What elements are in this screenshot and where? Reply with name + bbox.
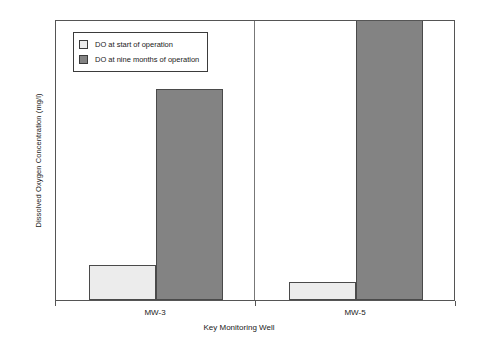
light-gray-swatch-icon xyxy=(79,40,88,49)
bar-chart-figure: Dissolved Oxygen Concentration (mg/l) 00… xyxy=(0,0,478,346)
bar-mw-5-series-2 xyxy=(356,20,423,300)
bar-mw-3-series-2 xyxy=(156,89,223,300)
y-tick-mark xyxy=(55,91,56,92)
legend-entry-label: DO at start of operation xyxy=(95,40,173,49)
y-tick-mark xyxy=(55,56,56,57)
x-axis-title: Key Monitoring Well xyxy=(0,323,478,332)
dark-gray-swatch-icon xyxy=(79,55,88,64)
legend-entry-label: DO at nine months of operation xyxy=(95,55,199,64)
y-tick-mark xyxy=(55,266,56,267)
y-tick-mark xyxy=(55,161,56,162)
y-tick-mark xyxy=(55,196,56,197)
chart-legend: DO at start of operation DO at nine mont… xyxy=(73,32,208,72)
category-divider xyxy=(254,21,255,300)
x-tick-label-mw-5: MW-5 xyxy=(344,308,365,317)
x-tick-mark xyxy=(255,301,256,306)
y-axis-title: Dissolved Oxygen Concentration (mg/l) xyxy=(34,41,43,281)
bar-mw-5-series-1 xyxy=(289,282,356,300)
x-tick-mark xyxy=(55,301,56,306)
y-tick-mark xyxy=(55,231,56,232)
legend-entry: DO at nine months of operation xyxy=(79,52,199,67)
plot-area: 00.10.20.30.40.50.60.70.8 DO at start of… xyxy=(55,20,455,301)
x-tick-mark xyxy=(455,301,456,306)
y-tick-mark xyxy=(55,126,56,127)
bar-mw-3-series-1 xyxy=(89,265,156,300)
legend-entry: DO at start of operation xyxy=(79,37,199,52)
x-tick-label-mw-3: MW-3 xyxy=(144,308,165,317)
y-tick-mark xyxy=(55,21,56,22)
